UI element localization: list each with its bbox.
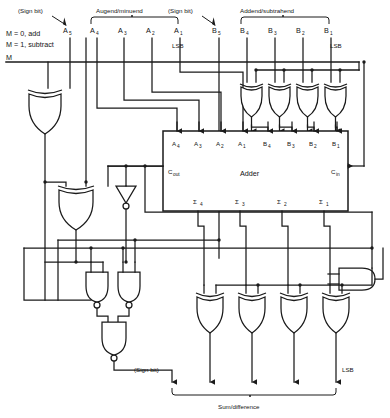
inverter-bubble [123,203,129,209]
inverter-gate [116,164,136,262]
output-annotations: (Sign bit) LSB Sum/difference [134,366,354,410]
b3-sub: 3 [274,31,277,36]
a3-wire [124,38,199,130]
junction-dot [74,260,77,263]
b-xor-gate-1 [324,84,347,131]
addend-group: Addend/subtrahend [240,7,329,24]
adder-label: Adder [240,169,260,178]
mode-note: M = 0, add M = 1, subtract [6,29,54,49]
sign-bit-label-a: (Sign bit) [18,7,43,14]
m-control-to-b-xors [254,62,359,82]
augend-group: Augend/minuend [91,7,178,24]
carry-in-wiring [348,60,366,166]
b1-label: B [324,26,329,35]
junction-dot [89,246,92,249]
nand-gate-left [86,262,108,322]
junction-dot [217,238,220,241]
junction-dot [143,164,146,167]
junction-dot [310,68,313,71]
output-brace [172,388,336,397]
adder-sum4-label: Σ [193,198,197,205]
sum-xor-gate-2 [280,285,308,382]
b5-label: B [212,26,217,35]
adder-sum2-sub: 2 [284,202,287,207]
xor-back-arc [238,293,266,297]
xor-back-arc [324,84,347,87]
nand-right-out [118,308,129,322]
a2-wire [152,38,221,130]
xor-back-arc [280,293,308,297]
xor-back-arc [296,84,319,87]
a4-sub: 4 [96,31,99,36]
nand-gate-right [118,262,140,322]
a3-label: A [118,26,123,35]
b3-label: B [268,26,273,35]
b5-sub: 5 [218,31,221,36]
xor-body [197,297,223,333]
nand-bubble [111,355,117,361]
sign-bit-label-out: (Sign bit) [134,366,159,373]
adder-sum1-label: Σ [319,198,323,205]
junction-dot [362,60,365,63]
carry-in-sub: in [336,172,340,177]
lsb-label-b: LSB [330,42,342,49]
b4-to-adder [252,125,269,130]
a1-sub: 1 [180,31,183,36]
b4-sub: 4 [246,31,249,36]
nand-bubble [94,302,100,308]
lsb-label-a: LSB [172,42,184,49]
circuit-diagram-canvas: M = 0, add M = 1, subtract (Sign bit) (S… [0,0,390,418]
xor-body [59,190,93,230]
sum-xor-gate-3 [238,285,266,382]
xor-back-arc [28,90,62,94]
adder-b2-sub: 2 [314,144,317,149]
junction-dot [340,283,343,286]
xor-body [29,94,61,134]
a5-sub: 5 [69,31,72,36]
adder-sum4-sub: 4 [200,202,203,207]
xor-back-arc [58,186,94,190]
xor-body [281,297,307,333]
junction-dot [124,260,127,263]
carry-out-wiring [108,166,163,186]
xor-body [241,87,262,117]
mode-input-label: M [6,53,12,62]
sum-xor-gate-4 [196,285,224,382]
nand-gate-output [102,322,172,382]
a4-wire [97,38,177,130]
addend-group-label: Addend/subtrahend [240,7,295,14]
adder-a1-sub: 1 [243,144,246,149]
sign-bit-label-b: (Sign bit) [168,7,193,14]
xor-body [297,87,318,117]
cout-wire [108,166,163,186]
a4-label: A [90,26,95,35]
adder-sum1-sub: 1 [326,202,329,207]
a1-label: A [174,26,179,35]
adder-b2-label: B [309,140,313,147]
lower-xor-input-wires [43,38,87,300]
b2-label: B [296,26,301,35]
junction-dot [282,68,285,71]
a1-wire [180,38,243,130]
output-group-label: Sum/difference [218,403,260,410]
adder-subtractor-schematic: M = 0, add M = 1, subtract (Sign bit) (S… [0,0,390,418]
adder-b3-label: B [287,140,291,147]
b2-sub: 2 [302,31,305,36]
augend-brace [91,15,178,24]
sign-bit-pointer-b [202,16,215,25]
junction-dot [133,238,136,241]
b-xor-to-adder-wires [252,125,338,130]
junction-dot [370,246,373,249]
a2-sub: 2 [152,31,155,36]
xor-back-arc [322,293,350,297]
a5-label: A [63,26,68,35]
adder-b1-label: B [332,140,336,147]
nand-input-rails [24,238,372,300]
b-xor-gate-2 [296,84,319,131]
nand-left-out [97,308,108,322]
b-input-labels: B 5 B 4 B 3 B 2 B 1 LSB [212,26,342,49]
junction-dot [121,246,124,249]
junction-dot [338,68,341,71]
carry-out-sub: out [173,172,180,177]
sign-bit-annotation-b: (Sign bit) [168,7,215,25]
